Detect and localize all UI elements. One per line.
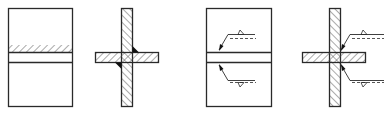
fillet-weld-symbol-icon	[361, 30, 367, 35]
section-view-symbols	[303, 9, 384, 107]
weld-leader-bottom	[219, 64, 256, 87]
plan-view-hatched	[9, 9, 73, 107]
section-view-fillet	[96, 9, 159, 107]
fillet-weld-symbol-icon	[238, 30, 244, 35]
horizontal-plate	[303, 53, 366, 63]
weld-leader-top	[219, 30, 256, 51]
weld-hatch-band	[9, 45, 72, 52]
fillet-weld-symbol-icon	[361, 83, 367, 88]
arrow-head-icon	[219, 44, 224, 51]
horizontal-plate	[96, 53, 159, 63]
plate-outline	[207, 9, 272, 107]
fillet-weld-bottom	[115, 63, 122, 70]
plate-outline	[9, 9, 73, 107]
weld-leader-top	[341, 30, 384, 51]
plan-view-symbols	[207, 9, 272, 107]
weld-leader-bottom	[341, 64, 384, 87]
arrow-head-icon	[219, 64, 224, 71]
fillet-weld-symbol-icon	[238, 83, 244, 88]
arrow-head-icon	[341, 44, 346, 51]
fillet-weld-top	[133, 46, 140, 53]
weld-diagram	[0, 0, 384, 120]
arrow-head-icon	[341, 64, 346, 71]
